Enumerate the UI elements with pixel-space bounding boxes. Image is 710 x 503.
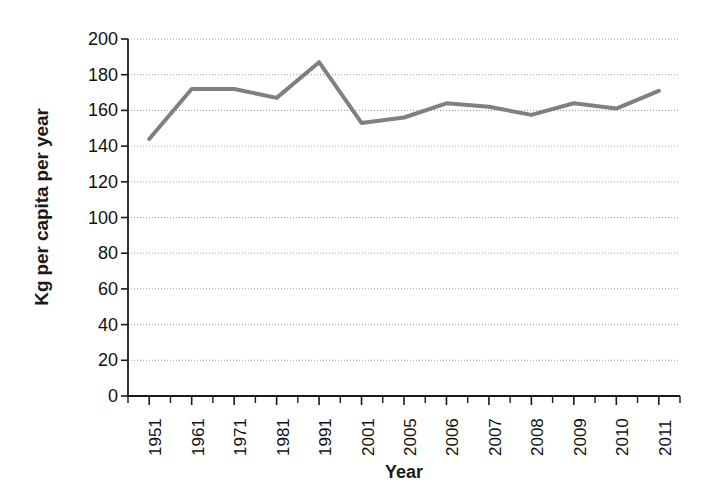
x-tick-marks	[128, 396, 680, 405]
data-series-line	[149, 62, 659, 139]
line-chart: Kg per capita per year Year 020406080100…	[0, 0, 710, 503]
plot-area	[0, 0, 710, 503]
y-tick-marks	[121, 39, 128, 396]
